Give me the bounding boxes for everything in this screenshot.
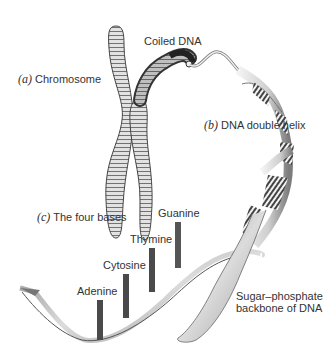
backbone-label-line2: backbone of DNA xyxy=(236,302,323,314)
four-bases-label: (c) The four bases xyxy=(37,211,127,223)
backbone-label-line1: Sugar–phosphate xyxy=(236,290,323,302)
dna-strand xyxy=(190,52,240,72)
chromosome xyxy=(106,26,152,240)
thymine-bar xyxy=(149,248,155,292)
cytosine-bar xyxy=(123,274,129,318)
chromosome-label: (a) Chromosome xyxy=(18,73,101,85)
double-helix-label: (b) DNA double helix xyxy=(204,119,305,131)
adenine-bar xyxy=(97,300,103,340)
coiled-dna-label: Coiled DNA xyxy=(144,35,201,47)
backbone-label: Sugar–phosphate backbone of DNA xyxy=(236,290,323,314)
double-helix xyxy=(238,70,294,245)
guanine-label: Guanine xyxy=(158,207,200,219)
cytosine-label: Cytosine xyxy=(103,259,146,271)
coiled-dna xyxy=(140,53,193,100)
adenine-label: Adenine xyxy=(77,285,117,297)
guanine-bar xyxy=(175,222,181,268)
thymine-label: Thymine xyxy=(130,233,172,245)
